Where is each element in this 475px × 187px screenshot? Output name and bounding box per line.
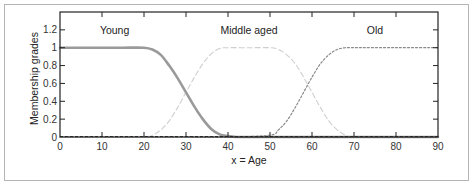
x-tick-label: 60: [306, 141, 318, 152]
membership-chart: 010203040506070809000.20.40.60.811.2 You…: [0, 0, 475, 187]
x-tick-label: 0: [57, 141, 63, 152]
x-tick-label: 10: [96, 141, 108, 152]
y-tick-label: 0.8: [43, 60, 57, 71]
y-tick-label: 1: [51, 42, 57, 53]
curve-young: [60, 48, 438, 137]
curve-label-young: Young: [100, 24, 130, 36]
y-tick-label: 0.4: [43, 96, 57, 107]
curves-layer: [60, 48, 438, 138]
curve-label-middle-aged: Middle aged: [220, 24, 277, 36]
x-tick-label: 40: [222, 141, 234, 152]
curve-old: [60, 48, 438, 138]
y-tick-label: 0: [51, 132, 57, 143]
y-tick-label: 1.2: [43, 24, 57, 35]
y-tick-label: 0.6: [43, 78, 57, 89]
curve-label-old: Old: [367, 24, 384, 36]
annotations-layer: YoungMiddle agedOld: [100, 24, 383, 36]
x-axis-label: x = Age: [231, 154, 266, 166]
x-tick-label: 30: [180, 141, 192, 152]
x-tick-label: 20: [138, 141, 150, 152]
x-tick-label: 90: [432, 141, 444, 152]
curve-middle-aged: [60, 48, 438, 138]
x-tick-label: 80: [390, 141, 402, 152]
x-tick-label: 50: [264, 141, 276, 152]
x-tick-label: 70: [348, 141, 360, 152]
y-tick-label: 0.2: [43, 114, 57, 125]
y-axis-label: Membership grades: [28, 32, 40, 125]
